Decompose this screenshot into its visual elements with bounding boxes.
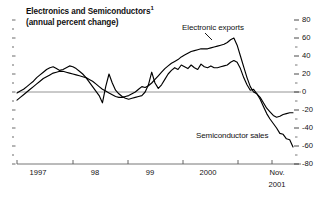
x-axis-tick-label: 1997 (18, 168, 58, 177)
exports-label-leader (205, 33, 212, 40)
y-axis-tick-label: 20 (302, 69, 310, 78)
y-axis-tick-label: -60 (302, 141, 313, 150)
x-axis-tick-label: Nov. (257, 168, 297, 177)
series-line-electronic-exports (17, 38, 293, 117)
series-line-semiconductor-sales (17, 61, 293, 147)
x-axis-tick-label: 2000 (188, 168, 228, 177)
y-axis-tick-label: 40 (302, 51, 310, 60)
y-axis-tick-label: 0 (302, 87, 306, 96)
y-axis-tick-label: -80 (302, 159, 313, 168)
y-axis-tick-label: 60 (302, 33, 310, 42)
chart-container: Electronics and Semiconductors1 (annual … (0, 0, 324, 206)
x-axis-tick-label: 2001 (257, 180, 297, 189)
y-axis-tick-label: -20 (302, 105, 313, 114)
y-axis-tick-label: -40 (302, 123, 313, 132)
x-axis-tick-label: 99 (130, 168, 170, 177)
x-axis-tick-label: 98 (75, 168, 115, 177)
y-axis-tick-label: 80 (302, 15, 310, 24)
